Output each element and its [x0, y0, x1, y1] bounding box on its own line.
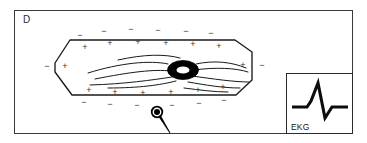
- charge-signs-layer: −−−−−−−−−−−−−−++++++++++++++: [44, 24, 264, 110]
- intracellular-positive-charge: +: [82, 42, 87, 52]
- intracellular-positive-charge: +: [168, 87, 173, 97]
- myofibril-line: [118, 55, 180, 60]
- intracellular-positive-charge: +: [107, 38, 112, 48]
- extracellular-negative-charge: −: [101, 26, 106, 36]
- myofibril-line: [88, 62, 168, 73]
- extracellular-negative-charge: −: [221, 95, 226, 105]
- extracellular-negative-charge: −: [259, 60, 264, 70]
- cell-nucleus: [168, 61, 199, 80]
- myofibril-line: [196, 62, 246, 68]
- intracellular-positive-charge: +: [220, 82, 225, 92]
- ekg-qrs-waveform: [292, 83, 348, 118]
- intracellular-positive-charge: +: [62, 61, 67, 71]
- ekg-inset-box: EKG: [286, 73, 353, 134]
- recording-electrode: [151, 106, 171, 133]
- extracellular-negative-charge: −: [77, 30, 82, 40]
- intracellular-positive-charge: +: [112, 87, 117, 97]
- extracellular-negative-charge: −: [134, 100, 139, 110]
- myofibril-line: [95, 70, 170, 79]
- myofibril-line: [90, 77, 172, 85]
- extracellular-negative-charge: −: [196, 98, 201, 108]
- extracellular-negative-charge: −: [169, 100, 174, 110]
- myofibril-line: [192, 76, 249, 82]
- ekg-label: EKG: [291, 123, 310, 132]
- myofibril-line: [108, 81, 176, 88]
- extracellular-negative-charge: −: [81, 97, 86, 107]
- intracellular-positive-charge: +: [240, 60, 245, 70]
- extracellular-negative-charge: −: [183, 26, 188, 36]
- electrode-core: [154, 109, 160, 115]
- figure-panel-d: D −−−−−−−−−−−−−−++++++++++++++ EKG: [0, 0, 367, 143]
- intracellular-positive-charge: +: [190, 39, 195, 49]
- extracellular-negative-charge: −: [44, 61, 49, 71]
- extracellular-negative-charge: −: [208, 28, 213, 38]
- intracellular-positive-charge: +: [195, 85, 200, 95]
- intracellular-positive-charge: +: [163, 38, 168, 48]
- extracellular-negative-charge: −: [128, 24, 133, 34]
- intracellular-positive-charge: +: [216, 41, 221, 51]
- extracellular-negative-charge: −: [155, 25, 160, 35]
- intracellular-positive-charge: +: [140, 88, 145, 98]
- extracellular-negative-charge: −: [107, 99, 112, 109]
- intracellular-positive-charge: +: [86, 85, 91, 95]
- nucleus-highlight: [177, 66, 190, 73]
- intracellular-positive-charge: +: [135, 37, 140, 47]
